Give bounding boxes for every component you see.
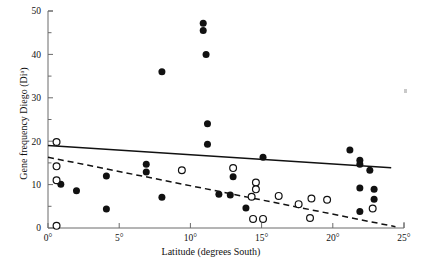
plot-axes bbox=[48, 11, 404, 228]
scatter-plot-svg: 010203040500°5°10°15°20°25° bbox=[0, 0, 422, 267]
svg-text:10: 10 bbox=[32, 180, 42, 190]
svg-text:5°: 5° bbox=[115, 233, 124, 243]
scan-artifact bbox=[404, 89, 407, 93]
svg-text:15°: 15° bbox=[255, 233, 269, 243]
figure-container: 010203040500°5°10°15°20°25° Gene frequen… bbox=[0, 0, 422, 267]
data-points bbox=[53, 20, 377, 230]
svg-text:30: 30 bbox=[32, 93, 42, 103]
svg-text:25°: 25° bbox=[397, 233, 411, 243]
svg-text:0°: 0° bbox=[44, 233, 53, 243]
tick-labels: 010203040500°5°10°15°20°25° bbox=[32, 6, 411, 243]
x-axis-title: Latitude (degrees South) bbox=[0, 246, 422, 257]
svg-text:0: 0 bbox=[36, 223, 41, 233]
svg-text:10°: 10° bbox=[184, 233, 198, 243]
svg-text:50: 50 bbox=[32, 6, 42, 16]
svg-text:20°: 20° bbox=[326, 233, 340, 243]
y-axis-title: Gene frequency Diego (Diᵃ) bbox=[18, 34, 29, 214]
svg-text:20: 20 bbox=[32, 137, 42, 147]
svg-text:40: 40 bbox=[32, 50, 42, 60]
regression-lines bbox=[48, 146, 395, 227]
